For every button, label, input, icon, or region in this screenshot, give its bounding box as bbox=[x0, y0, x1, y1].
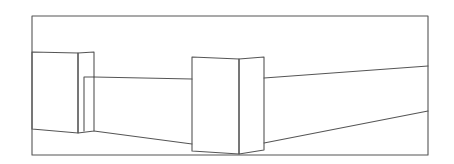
back-wall-top-edge bbox=[94, 77, 192, 79]
diagram-svg bbox=[0, 0, 454, 164]
right-wall-bottom-edge bbox=[264, 111, 428, 143]
left-block-side-face bbox=[78, 52, 94, 133]
perspective-diagram bbox=[0, 0, 454, 164]
center-block-front-face bbox=[192, 57, 239, 154]
left-block-front-face bbox=[32, 52, 78, 133]
right-wall-top-edge bbox=[264, 66, 428, 78]
diagram-frame bbox=[32, 16, 428, 155]
center-block-side-face bbox=[239, 57, 264, 154]
left-block-inner-edge bbox=[84, 77, 94, 131]
back-wall-bottom-edge bbox=[94, 131, 192, 144]
